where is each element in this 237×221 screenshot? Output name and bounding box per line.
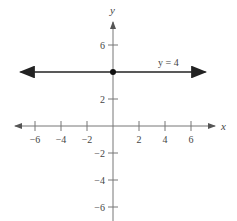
y-tick-label: −4: [94, 175, 105, 186]
y-axis-label: y: [109, 4, 115, 16]
x-axis-label: x: [220, 120, 226, 132]
data-points: [110, 69, 116, 75]
x-tick-label: −4: [56, 134, 67, 145]
x-ticks: −6−4−2246: [30, 121, 194, 145]
coordinate-plane: x y −6−4−2246 62−2−4−6 y = 4: [0, 0, 237, 221]
x-tick-label: 6: [189, 134, 194, 145]
y-tick-label: −2: [94, 148, 105, 159]
y-tick-label: 2: [100, 94, 105, 105]
x-tick-label: −6: [30, 134, 41, 145]
y-intercept-point: [110, 69, 116, 75]
equation-label: y = 4: [158, 57, 179, 68]
y-tick-label: 6: [100, 40, 105, 51]
x-tick-label: 2: [137, 134, 142, 145]
x-tick-label: −2: [82, 134, 93, 145]
y-tick-label: −6: [94, 202, 105, 213]
annotations: y = 4: [158, 57, 179, 68]
x-tick-label: 4: [163, 134, 168, 145]
